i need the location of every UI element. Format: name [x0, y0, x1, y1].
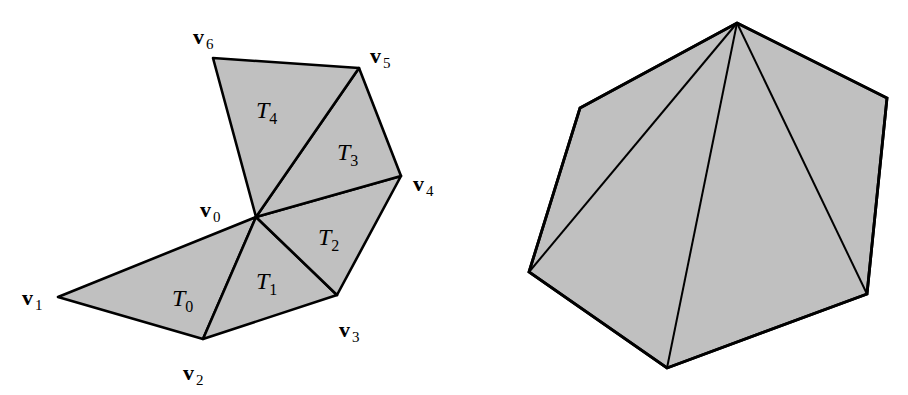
vertex-label-base: v [413, 171, 424, 196]
triangle-label-subscript: 1 [269, 281, 277, 298]
fan-triangles [58, 58, 401, 339]
triangle-label-subscript: 4 [269, 110, 277, 127]
vertex-label-base: v [193, 24, 204, 49]
vertex-label-subscript: 2 [196, 372, 204, 388]
vertex-label-base: v [370, 43, 381, 68]
vertex-label-base: v [183, 360, 194, 385]
vertex-label-v3: v3 [339, 317, 360, 345]
hexagon-outline [529, 23, 887, 368]
vertex-label-v4: v4 [413, 171, 434, 199]
triangle-fan-figure: T0T1T2T3T4 v0v1v2v3v4v5v6 [22, 24, 434, 388]
diagram-canvas: T0T1T2T3T4 v0v1v2v3v4v5v6 [0, 0, 908, 395]
vertex-label-subscript: 5 [383, 55, 391, 71]
vertex-label-subscript: 0 [213, 209, 221, 225]
vertex-label-v0: v0 [200, 197, 221, 225]
vertex-label-v6: v6 [193, 24, 214, 52]
triangle-label-subscript: 3 [350, 152, 358, 169]
vertex-label-base: v [22, 285, 33, 310]
triangle-label-subscript: 0 [185, 298, 193, 315]
vertex-label-v2: v2 [183, 360, 204, 388]
vertex-label-base: v [200, 197, 211, 222]
vertex-label-subscript: 1 [35, 297, 43, 313]
vertex-label-v1: v1 [22, 285, 43, 313]
vertex-label-subscript: 6 [206, 36, 214, 52]
vertex-label-subscript: 3 [352, 329, 360, 345]
vertex-label-base: v [339, 317, 350, 342]
hexagon-triangulation-figure [529, 23, 887, 368]
vertex-label-subscript: 4 [426, 183, 434, 199]
triangle-label-subscript: 2 [331, 237, 339, 254]
vertex-label-v5: v5 [370, 43, 391, 71]
